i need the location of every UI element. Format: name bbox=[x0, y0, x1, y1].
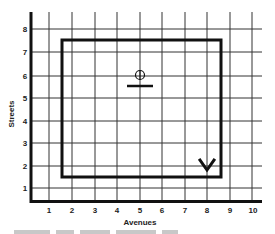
x-tick: 3 bbox=[93, 206, 98, 215]
y-tick-labels: 1 2 3 4 5 6 7 8 bbox=[23, 25, 28, 193]
x-tick: 1 bbox=[47, 206, 52, 215]
x-tick: 6 bbox=[160, 206, 165, 215]
x-tick-labels: 1 2 3 4 5 6 7 8 9 10 bbox=[47, 206, 258, 215]
x-tick: 4 bbox=[115, 206, 120, 215]
x-tick: 5 bbox=[138, 206, 143, 215]
x-axis-label: Avenues bbox=[123, 218, 157, 227]
x-tick: 2 bbox=[70, 206, 75, 215]
y-tick: 3 bbox=[23, 139, 28, 148]
street-grid-lines bbox=[31, 29, 262, 188]
y-tick: 8 bbox=[23, 25, 28, 34]
x-tick: 10 bbox=[249, 206, 258, 215]
y-tick: 1 bbox=[23, 184, 28, 193]
x-tick: 9 bbox=[228, 206, 233, 215]
route-path bbox=[62, 40, 221, 177]
y-tick: 6 bbox=[23, 72, 28, 81]
y-tick: 7 bbox=[23, 48, 28, 57]
y-tick: 4 bbox=[23, 117, 28, 126]
x-tick: 7 bbox=[183, 206, 188, 215]
y-tick: 2 bbox=[23, 162, 28, 171]
x-tick: 8 bbox=[205, 206, 210, 215]
y-tick: 5 bbox=[23, 94, 28, 103]
street-grid-diagram: 1 2 3 4 5 6 7 8 9 10 1 2 3 4 5 6 7 8 Ave… bbox=[0, 0, 275, 234]
y-axis-label: Streets bbox=[7, 100, 16, 128]
caption-fragment bbox=[14, 230, 178, 234]
